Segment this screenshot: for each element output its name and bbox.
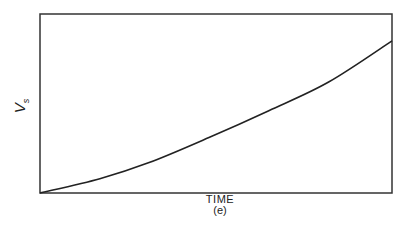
plot-frame: [40, 14, 392, 193]
figure-caption: (e): [190, 205, 250, 216]
y-axis-label: Vs: [11, 99, 31, 114]
vs-curve: [40, 41, 392, 193]
